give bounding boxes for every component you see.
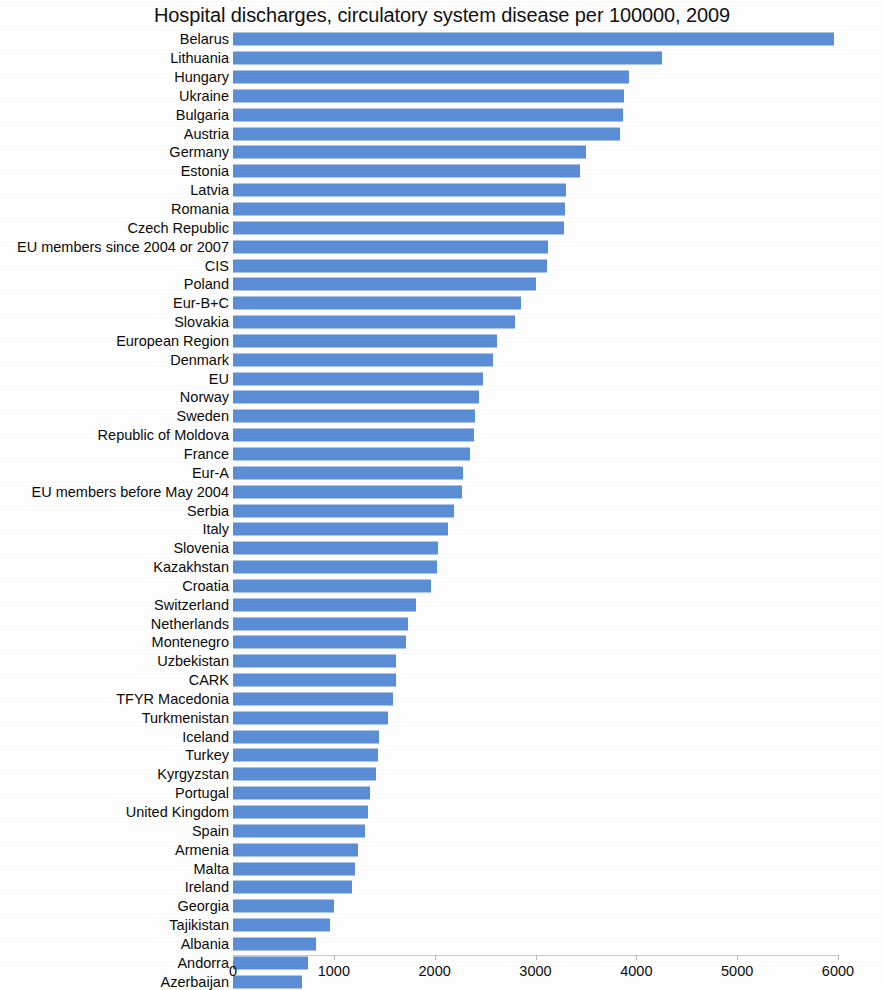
bar-row: Sweden xyxy=(0,407,884,426)
bar-track xyxy=(233,410,838,423)
category-label: Croatia xyxy=(182,578,229,593)
bar-track xyxy=(233,523,838,536)
bar-row: Slovenia xyxy=(0,539,884,558)
bar xyxy=(233,278,536,291)
bar xyxy=(233,372,483,385)
bar xyxy=(233,937,316,950)
bar-row: Eur-B+C xyxy=(0,294,884,313)
bar xyxy=(233,787,370,800)
category-label: Albania xyxy=(181,936,229,951)
bar-row: Czech Republic xyxy=(0,218,884,237)
bar xyxy=(233,146,586,159)
bar-row: Serbia xyxy=(0,501,884,520)
bar xyxy=(233,636,406,649)
chart-title: Hospital discharges, circulatory system … xyxy=(0,4,884,27)
bar-track xyxy=(233,52,838,65)
bar xyxy=(233,749,378,762)
bar-track xyxy=(233,203,838,216)
bar-row: Ireland xyxy=(0,878,884,897)
category-label: Portugal xyxy=(175,786,229,801)
bar-track xyxy=(233,561,838,574)
bar-track xyxy=(233,674,838,687)
category-label: Bulgaria xyxy=(176,107,229,122)
category-label: Azerbaijan xyxy=(160,974,229,989)
bar xyxy=(233,843,358,856)
x-axis-tick xyxy=(536,955,537,960)
bar-row: Turkmenistan xyxy=(0,708,884,727)
category-label: Iceland xyxy=(182,729,229,744)
bar-row: Lithuania xyxy=(0,49,884,68)
bar xyxy=(233,598,416,611)
bar xyxy=(233,617,408,630)
bar-row: Turkey xyxy=(0,746,884,765)
bar-track xyxy=(233,749,838,762)
bar-track xyxy=(233,429,838,442)
bar-row: Norway xyxy=(0,388,884,407)
bar-row: United Kingdom xyxy=(0,803,884,822)
bar-track xyxy=(233,542,838,555)
bar-track xyxy=(233,881,838,894)
bar-row: Tajikistan xyxy=(0,916,884,935)
category-label: CIS xyxy=(205,258,229,273)
bar-track xyxy=(233,278,838,291)
bar-row: EU members before May 2004 xyxy=(0,482,884,501)
category-label: Armenia xyxy=(175,842,229,857)
bar-track xyxy=(233,806,838,819)
category-label: Belarus xyxy=(180,32,229,47)
bar-track xyxy=(233,900,838,913)
bar xyxy=(233,184,566,197)
bar-row: Croatia xyxy=(0,576,884,595)
category-label: Tajikistan xyxy=(169,918,229,933)
category-label: Kazakhstan xyxy=(153,560,229,575)
bar-track xyxy=(233,466,838,479)
bar-row: EU xyxy=(0,369,884,388)
bar xyxy=(233,165,580,178)
bar-row: Kazakhstan xyxy=(0,558,884,577)
category-label: Georgia xyxy=(177,899,229,914)
bar-row: TFYR Macedonia xyxy=(0,690,884,709)
bar-track xyxy=(233,504,838,517)
bar xyxy=(233,334,497,347)
category-label: TFYR Macedonia xyxy=(116,691,229,706)
bar-track xyxy=(233,598,838,611)
bar-track xyxy=(233,146,838,159)
bar-track xyxy=(233,579,838,592)
bar-row: Portugal xyxy=(0,784,884,803)
bar-row: Denmark xyxy=(0,350,884,369)
bar xyxy=(233,429,474,442)
bar xyxy=(233,542,438,555)
category-label: Eur-A xyxy=(192,465,229,480)
bar-track xyxy=(233,297,838,310)
category-label: Sweden xyxy=(177,409,229,424)
bar xyxy=(233,674,396,687)
bar-row: Latvia xyxy=(0,181,884,200)
category-label: Czech Republic xyxy=(127,220,229,235)
bar-row: CARK xyxy=(0,671,884,690)
category-label: Serbia xyxy=(187,503,229,518)
bar xyxy=(233,504,454,517)
category-label: Denmark xyxy=(170,352,229,367)
bar-row: European Region xyxy=(0,332,884,351)
bar-row: Austria xyxy=(0,124,884,143)
bar-track xyxy=(233,221,838,234)
category-label: Republic of Moldova xyxy=(98,428,229,443)
bar xyxy=(233,824,365,837)
bar-track xyxy=(233,787,838,800)
category-label: EU xyxy=(209,371,229,386)
bar-row: Belarus xyxy=(0,30,884,49)
bar-track xyxy=(233,447,838,460)
bar xyxy=(233,203,565,216)
bar xyxy=(233,579,431,592)
bar-row: Iceland xyxy=(0,727,884,746)
category-label: European Region xyxy=(116,333,229,348)
bar-row: Uzbekistan xyxy=(0,652,884,671)
x-axis-tick-label: 0 xyxy=(229,963,237,979)
x-axis-tick xyxy=(636,955,637,960)
bar-row: CIS xyxy=(0,256,884,275)
bar-row: Republic of Moldova xyxy=(0,426,884,445)
bar xyxy=(233,89,624,102)
bar xyxy=(233,410,475,423)
x-axis-tick-label: 5000 xyxy=(721,963,753,979)
category-label: Poland xyxy=(184,277,229,292)
bar-row: Romania xyxy=(0,200,884,219)
